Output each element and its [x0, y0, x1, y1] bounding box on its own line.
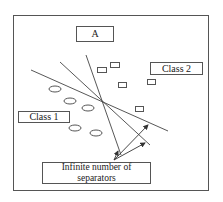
class2-point	[111, 63, 120, 68]
label-class-1: Class 1	[18, 111, 70, 123]
class2-point	[136, 107, 144, 112]
separator-lines	[31, 55, 168, 155]
separators-text-line1: Infinite number of	[62, 162, 132, 173]
label-a: A	[76, 26, 114, 42]
class1-point	[90, 130, 102, 136]
class1-point	[49, 86, 61, 92]
arrow-icon	[114, 125, 148, 160]
label-class-2: Class 2	[150, 62, 203, 75]
pointer-arrows	[114, 125, 148, 160]
arrow-icon	[114, 143, 145, 160]
class2-point	[98, 68, 107, 73]
class1-point	[64, 98, 76, 104]
separators-text-line2: separators	[77, 173, 116, 184]
class2-point	[148, 80, 156, 85]
class1-point	[82, 105, 94, 111]
class1-point	[69, 125, 81, 131]
class2-point	[119, 83, 127, 88]
label-separators: Infinite number of separators	[42, 162, 151, 184]
